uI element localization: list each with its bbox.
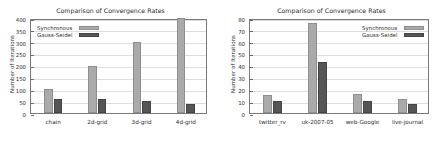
y-tick-mark [250, 31, 253, 32]
chart-legend: SynchronousGauss-Seidel [362, 24, 424, 38]
x-tick-label: 3d-grid [120, 119, 164, 125]
y-tick-label: 40 [223, 64, 245, 70]
legend-item: Synchronous [362, 24, 424, 31]
chart-panel-right: Comparison of Convergence Rates Number o… [221, 0, 442, 141]
y-tick-label: 100 [4, 88, 26, 94]
y-tick-mark [31, 67, 34, 68]
legend-item: Gauss-Seidel [37, 31, 99, 38]
bar-gauss-seidel-uk-2007-05 [318, 62, 327, 113]
y-tick-label: 250 [4, 52, 26, 58]
bar-gauss-seidel-2d-grid [98, 99, 107, 113]
y-tick-mark [250, 43, 253, 44]
chart-legend: SynchronousGauss-Seidel [37, 24, 99, 38]
gridline [250, 67, 428, 68]
x-tick-label: web-Google [340, 119, 385, 125]
y-tick-label: 30 [223, 76, 245, 82]
x-tick-label: uk-2007-05 [295, 119, 340, 125]
y-tick-label: 80 [223, 17, 245, 23]
x-tick-label: 2d-grid [75, 119, 119, 125]
x-tick-label: twitter_rv [250, 119, 295, 125]
y-tick-mark [250, 91, 253, 92]
legend-label: Gauss-Seidel [37, 32, 79, 38]
y-tick-mark [31, 103, 34, 104]
y-tick-label: 0 [223, 112, 245, 118]
y-tick-label: 300 [4, 41, 26, 47]
bar-synchronous-uk-2007-05 [308, 23, 317, 113]
bar-synchronous-chain [44, 89, 53, 113]
bar-gauss-seidel-4d-grid [186, 104, 195, 113]
y-tick-mark [31, 43, 34, 44]
y-tick-label: 350 [4, 29, 26, 35]
bar-synchronous-web-google [353, 94, 362, 113]
x-tick-label: 4d-grid [164, 119, 208, 125]
y-tick-label: 50 [4, 100, 26, 106]
y-tick-label: 20 [223, 88, 245, 94]
y-tick-label: 150 [4, 76, 26, 82]
y-tick-label: 50 [223, 52, 245, 58]
figure-container: Comparison of Convergence Rates Number o… [0, 0, 442, 141]
legend-label: Gauss-Seidel [362, 32, 404, 38]
y-tick-mark [31, 91, 34, 92]
y-tick-mark [250, 79, 253, 80]
bar-gauss-seidel-live-journal [408, 104, 417, 114]
legend-swatch-synchronous [404, 26, 424, 30]
chart-title-right: Comparison of Convergence Rates [221, 7, 442, 14]
x-tick-label: chain [31, 119, 75, 125]
y-tick-label: 60 [223, 41, 245, 47]
plot-area-left: 050100150200250300350400chain2d-grid3d-g… [30, 19, 207, 114]
legend-swatch-gauss-seidel [404, 33, 424, 37]
bar-synchronous-2d-grid [88, 66, 97, 114]
y-tick-label: 70 [223, 29, 245, 35]
legend-swatch-gauss-seidel [79, 33, 99, 37]
bar-synchronous-3d-grid [133, 42, 142, 113]
bar-synchronous-live-journal [398, 99, 407, 113]
bar-gauss-seidel-3d-grid [142, 101, 151, 113]
gridline [250, 43, 428, 44]
legend-label: Synchronous [37, 25, 79, 31]
y-tick-label: 200 [4, 64, 26, 70]
x-tick-label: live-journal [385, 119, 430, 125]
y-tick-mark [31, 31, 34, 32]
legend-item: Synchronous [37, 24, 99, 31]
y-tick-mark [31, 79, 34, 80]
gridline [250, 55, 428, 56]
gridline [250, 20, 428, 21]
y-tick-label: 10 [223, 100, 245, 106]
bar-synchronous-4d-grid [177, 18, 186, 113]
y-tick-mark [31, 55, 34, 56]
bar-gauss-seidel-twitter-rv [273, 101, 282, 113]
gridline [250, 91, 428, 92]
bar-gauss-seidel-web-google [363, 101, 372, 113]
bar-synchronous-twitter-rv [263, 95, 272, 113]
chart-panel-left: Comparison of Convergence Rates Number o… [0, 0, 221, 141]
y-tick-mark [250, 67, 253, 68]
y-tick-mark [31, 115, 34, 116]
chart-title-left: Comparison of Convergence Rates [0, 7, 221, 14]
y-tick-mark [250, 115, 253, 116]
y-tick-mark [250, 55, 253, 56]
legend-item: Gauss-Seidel [362, 31, 424, 38]
legend-label: Synchronous [362, 25, 404, 31]
gridline [250, 79, 428, 80]
legend-swatch-synchronous [79, 26, 99, 30]
y-tick-mark [250, 20, 253, 21]
bar-gauss-seidel-chain [54, 99, 63, 113]
y-tick-label: 0 [4, 112, 26, 118]
plot-area-right: 01020304050607080twitter_rvuk-2007-05web… [249, 19, 429, 114]
y-tick-mark [31, 20, 34, 21]
y-tick-label: 400 [4, 17, 26, 23]
y-tick-mark [250, 103, 253, 104]
